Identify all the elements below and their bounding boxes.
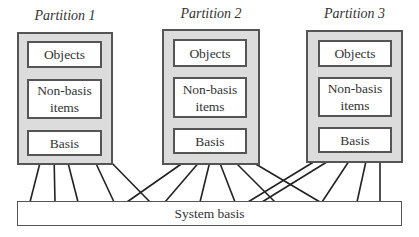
partition-1-objects: Objects [27, 41, 102, 68]
system-basis-box: System basis [17, 201, 402, 226]
partition-2-objects: Objects [173, 39, 247, 67]
partition-1-title: Partition 1 [17, 8, 113, 24]
partition-2-nonbasis-label: Non-basis items [181, 81, 239, 115]
partition-3-basis: Basis [318, 127, 392, 153]
partition-1-nonbasis-label: Non-basis items [36, 82, 94, 116]
partition-3-nonbasis: Non-basis items [318, 77, 392, 117]
partition-1-basis: Basis [27, 130, 102, 156]
partition-2-nonbasis: Non-basis items [173, 77, 247, 118]
partition-2-title: Partition 2 [162, 6, 260, 22]
partition-3-objects: Objects [318, 40, 392, 67]
partition-3-nonbasis-label: Non-basis items [326, 80, 384, 114]
partition-1-nonbasis: Non-basis items [27, 79, 102, 119]
partition-3-title: Partition 3 [306, 6, 403, 22]
partition-2-basis: Basis [173, 128, 247, 154]
